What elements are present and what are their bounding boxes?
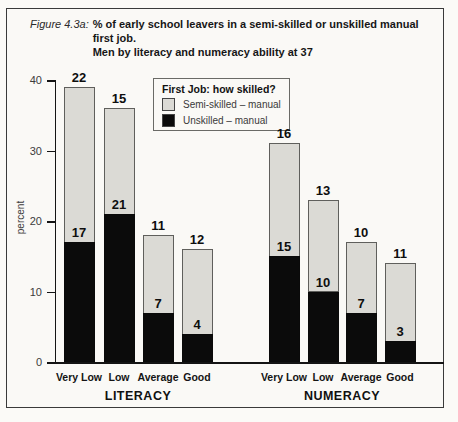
bar-value-label-semiskilled: 11 xyxy=(380,246,420,261)
x-category-label: Good xyxy=(374,371,426,383)
bar-value-label-semiskilled: 12 xyxy=(177,232,217,247)
legend-item-semi-skilled-manual: Semi-skilled – manual xyxy=(162,98,283,111)
x-group-label: NUMERACY xyxy=(287,389,397,403)
bar-value-label-unskilled: 7 xyxy=(138,296,178,311)
figure-number: Figure 4.3a: xyxy=(30,17,89,59)
y-tick xyxy=(47,80,55,82)
y-tick-label: 0 xyxy=(16,356,42,368)
bar-value-label-unskilled: 15 xyxy=(264,239,304,254)
bar-segment-semiskilled xyxy=(64,87,95,243)
legend-swatch-semi-skilled-manual xyxy=(162,98,175,111)
legend-item-unskilled-manual: Unskilled – manual xyxy=(162,114,283,127)
x-category-label: Good xyxy=(171,371,223,383)
y-axis-line xyxy=(55,80,57,362)
y-tick xyxy=(47,362,55,364)
figure-title-line1: % of early school leavers in a semi-skil… xyxy=(93,18,419,44)
figure-title: Figure 4.3a: % of early school leavers i… xyxy=(30,17,440,59)
y-tick xyxy=(47,151,55,153)
legend: First Job: how skilled? Semi-skilled – m… xyxy=(153,78,290,131)
y-tick-label: 10 xyxy=(16,286,42,298)
figure-title-text: % of early school leavers in a semi-skil… xyxy=(93,17,440,59)
legend-swatch-unskilled-manual xyxy=(162,114,175,127)
bar-value-label-semiskilled: 11 xyxy=(138,218,178,233)
bar-value-label-semiskilled: 15 xyxy=(99,91,139,106)
bar-segment-unskilled xyxy=(308,292,339,363)
bar-segment-unskilled xyxy=(346,313,377,362)
bar-value-label-semiskilled: 10 xyxy=(341,225,381,240)
bar-value-label-unskilled: 7 xyxy=(341,296,381,311)
bar-segment-unskilled xyxy=(182,334,213,362)
bar-value-label-unskilled: 21 xyxy=(99,197,139,212)
bar-segment-unskilled xyxy=(64,242,95,362)
scanned-figure-page: Figure 4.3a: % of early school leavers i… xyxy=(0,0,458,422)
bar-value-label-unskilled: 10 xyxy=(303,275,343,290)
x-axis-line xyxy=(55,362,445,364)
legend-label: Semi-skilled – manual xyxy=(183,99,281,110)
bar-segment-unskilled xyxy=(385,341,416,362)
bar-value-label-unskilled: 4 xyxy=(177,317,217,332)
bar-value-label-semiskilled: 13 xyxy=(303,183,343,198)
bar-value-label-semiskilled: 16 xyxy=(264,126,304,141)
bar-value-label-semiskilled: 22 xyxy=(59,70,99,85)
bar-segment-unskilled xyxy=(143,313,174,362)
bar-value-label-unskilled: 17 xyxy=(59,225,99,240)
bar-segment-unskilled xyxy=(104,214,135,362)
y-tick-label: 20 xyxy=(16,215,42,227)
x-group-label: LITERACY xyxy=(83,389,193,403)
legend-items: Semi-skilled – manualUnskilled – manual xyxy=(162,98,283,127)
figure-title-line2: Men by literacy and numeracy ability at … xyxy=(93,46,313,58)
bar-segment-unskilled xyxy=(269,256,300,362)
y-tick xyxy=(47,292,55,294)
y-tick-label: 30 xyxy=(16,145,42,157)
legend-label: Unskilled – manual xyxy=(183,115,268,126)
y-tick-label: 40 xyxy=(16,74,42,86)
legend-title: First Job: how skilled? xyxy=(162,83,283,95)
bar-value-label-unskilled: 3 xyxy=(380,324,420,339)
y-tick xyxy=(47,221,55,223)
